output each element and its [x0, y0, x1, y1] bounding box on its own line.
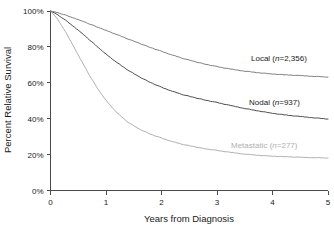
x-tick-label: 4 — [270, 198, 275, 207]
label-metastatic-prefix: Metastatic ( — [231, 141, 273, 150]
y-tick-label: 0% — [32, 187, 44, 196]
x-axis-ticks: 012345 — [48, 191, 331, 207]
series-label-metastatic: Metastatic (n=277) — [231, 141, 298, 150]
y-tick-label: 60% — [27, 79, 43, 88]
series-label-nodal: Nodal (n=937) — [249, 98, 300, 107]
y-axis-ticks: 0%20%40%60%80%100% — [23, 7, 50, 196]
y-tick-label: 20% — [27, 151, 43, 160]
x-tick-label: 1 — [104, 198, 109, 207]
label-metastatic-suffix: =277) — [277, 141, 298, 150]
y-tick-label: 40% — [27, 115, 43, 124]
label-nodal-prefix: Nodal ( — [249, 98, 275, 107]
series-label-local: Local (n=2,356) — [251, 54, 307, 63]
curve-group — [51, 11, 329, 158]
survival-curve-metastatic — [51, 11, 329, 158]
label-nodal-suffix: =937) — [279, 98, 300, 107]
x-tick-label: 2 — [159, 198, 164, 207]
x-tick-label: 0 — [48, 198, 53, 207]
x-tick-label: 3 — [215, 198, 220, 207]
x-axis-title: Years from Diagnosis — [144, 213, 234, 224]
chart-canvas: 0%20%40%60%80%100% 012345 Years from Dia… — [0, 0, 334, 228]
y-tick-label: 100% — [23, 7, 43, 16]
label-local-suffix: =2,356) — [279, 54, 307, 63]
survival-chart-figure: 0%20%40%60%80%100% 012345 Years from Dia… — [0, 0, 334, 228]
x-tick-label: 5 — [326, 198, 331, 207]
survival-curve-local — [51, 11, 329, 77]
y-tick-label: 80% — [27, 43, 43, 52]
y-axis-title: Percent Relative Survival — [2, 47, 13, 153]
label-local-prefix: Local ( — [251, 54, 275, 63]
